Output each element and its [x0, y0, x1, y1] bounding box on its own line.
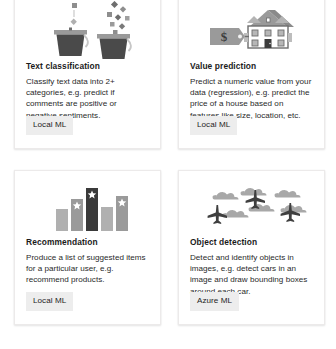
card-title: Object detection	[190, 237, 313, 247]
badge-wrap: Local ML	[190, 113, 237, 135]
card-value-prediction[interactable]: $ Value prediction Predict a numeric val…	[178, 0, 325, 149]
status-badge: Azure ML	[190, 292, 239, 311]
planes-clouds-icon	[179, 175, 324, 237]
card-title: Value prediction	[190, 61, 313, 71]
card-text-classification[interactable]: Text classification Classify text data i…	[14, 0, 161, 149]
svg-text:$: $	[220, 29, 227, 44]
badge-wrap: Azure ML	[190, 289, 239, 311]
card-body: Recommendation Produce a list of suggest…	[15, 237, 160, 286]
price-tag-house-icon: $	[179, 0, 324, 61]
bar-chart-stars-icon	[15, 175, 160, 237]
two-buckets-sorting-icon	[15, 0, 160, 61]
status-badge: Local ML	[26, 292, 73, 311]
scenario-card-grid: Text classification Classify text data i…	[0, 0, 336, 349]
card-title: Text classification	[26, 61, 149, 71]
card-body: Text classification Classify text data i…	[15, 61, 160, 121]
card-body: Value prediction Predict a numeric value…	[179, 61, 324, 121]
card-object-detection[interactable]: Object detection Detect and identify obj…	[178, 170, 325, 325]
card-recommendation[interactable]: Recommendation Produce a list of suggest…	[14, 170, 161, 325]
badge-wrap: Local ML	[26, 289, 73, 311]
badge-wrap: Local ML	[26, 113, 73, 135]
card-description: Produce a list of suggested items for a …	[26, 252, 149, 286]
card-body: Object detection Detect and identify obj…	[179, 237, 324, 297]
card-title: Recommendation	[26, 237, 149, 247]
status-badge: Local ML	[26, 116, 73, 135]
status-badge: Local ML	[190, 116, 237, 135]
